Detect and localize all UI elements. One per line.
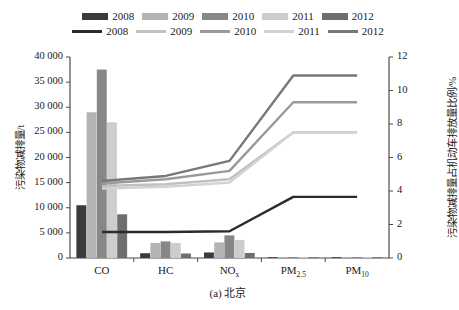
bar-HC-2012 — [181, 253, 191, 258]
y-tick-label-left-8: 40 000 — [10, 50, 63, 61]
bar-HC-2010 — [161, 241, 171, 258]
bar-NOx-2009 — [214, 242, 224, 258]
figure-caption: (a) 北京 — [0, 284, 456, 300]
line-series-2008 — [102, 197, 357, 232]
y-axis-right-title: 污染物减排量占机动车排放量比例/% — [444, 68, 459, 248]
y-tick-label-right-2: 4 — [397, 184, 419, 195]
y-tick-label-left-5: 25 000 — [10, 125, 63, 136]
x-tick-label-PM2.5: PM2.5 — [263, 264, 323, 279]
bar-NOx-2008 — [204, 252, 214, 258]
x-tick-label-CO: CO — [72, 264, 132, 276]
bar-PM10-2009 — [342, 257, 352, 258]
y-tick-label-right-1: 2 — [397, 218, 419, 229]
bar-PM2.5-2009 — [278, 257, 288, 258]
bar-PM2.5-2012 — [309, 257, 319, 258]
y-tick-label-left-6: 30 000 — [10, 100, 63, 111]
line-series-2010 — [102, 102, 357, 183]
bar-PM2.5-2008 — [268, 257, 278, 258]
bar-PM2.5-2011 — [298, 257, 308, 258]
bar-PM10-2011 — [362, 257, 372, 258]
bar-CO-2008 — [76, 205, 86, 258]
y-tick-label-left-3: 15 000 — [10, 176, 63, 187]
bar-PM2.5-2010 — [288, 257, 298, 258]
bar-CO-2012 — [117, 214, 127, 258]
bar-HC-2008 — [140, 253, 150, 258]
bar-NOx-2010 — [224, 235, 234, 258]
y-tick-label-right-6: 12 — [397, 50, 419, 61]
bar-CO-2009 — [87, 112, 97, 258]
y-tick-label-right-3: 6 — [397, 151, 419, 162]
x-tick-label-PM10: PM10 — [327, 264, 387, 279]
bar-CO-2010 — [97, 70, 107, 258]
bar-HC-2011 — [171, 243, 181, 258]
y-tick-label-left-0: 0 — [10, 251, 63, 262]
y-tick-label-right-5: 10 — [397, 84, 419, 95]
line-series-2012 — [102, 75, 357, 181]
y-tick-label-left-2: 10 000 — [10, 201, 63, 212]
bar-CO-2011 — [107, 122, 117, 258]
x-tick-label-NOx: NOx — [200, 264, 260, 279]
y-tick-label-left-4: 20 000 — [10, 151, 63, 162]
x-tick-label-HC: HC — [136, 264, 196, 276]
bar-NOx-2011 — [235, 240, 245, 258]
y-tick-label-right-4: 8 — [397, 117, 419, 128]
bar-PM10-2010 — [352, 257, 362, 258]
bar-HC-2009 — [150, 243, 160, 258]
y-tick-label-right-0: 0 — [397, 251, 419, 262]
y-tick-label-left-1: 5 000 — [10, 226, 63, 237]
bar-NOx-2012 — [245, 253, 255, 258]
bar-PM10-2008 — [332, 257, 342, 258]
bar-PM10-2012 — [372, 257, 382, 258]
y-tick-label-left-7: 35 000 — [10, 75, 63, 86]
